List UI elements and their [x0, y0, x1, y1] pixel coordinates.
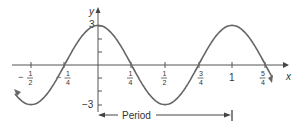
- svg-text:4: 4: [199, 79, 203, 86]
- x-tick-five-quarters: 5 4: [260, 70, 266, 86]
- y-tick-neg3: −3: [82, 99, 94, 110]
- period-right-arrow-icon: [224, 113, 231, 118]
- svg-text:4: 4: [261, 79, 265, 86]
- svg-text:−: −: [18, 72, 23, 82]
- svg-text:1: 1: [66, 70, 70, 77]
- svg-text:3: 3: [199, 70, 203, 77]
- sinusoid-chart: x y 3 −3 − 1 2: [0, 0, 294, 129]
- y-axis: y 3 −3: [82, 6, 102, 112]
- x-tick-half: 1 2: [161, 70, 167, 86]
- period-label: Period: [122, 110, 151, 121]
- period-left-arrow-icon: [98, 113, 105, 118]
- period-annotation: Period: [98, 110, 232, 121]
- curve-right-arrow-icon: [268, 75, 273, 83]
- y-axis-arrow-icon: [96, 7, 101, 13]
- svg-text:2: 2: [163, 79, 167, 86]
- svg-text:1: 1: [163, 70, 167, 77]
- svg-text:4: 4: [66, 79, 70, 86]
- svg-text:1: 1: [29, 70, 33, 77]
- x-axis-label: x: [285, 71, 292, 82]
- x-tick-three-quarters: 3 4: [198, 70, 204, 86]
- svg-text:1: 1: [129, 70, 133, 77]
- svg-text:4: 4: [129, 79, 133, 86]
- svg-text:5: 5: [261, 70, 265, 77]
- y-axis-label: y: [88, 6, 95, 17]
- x-tick-one: 1: [229, 72, 235, 83]
- x-tick-quarter: 1 4: [127, 70, 133, 86]
- x-axis: x: [12, 62, 292, 82]
- svg-text:2: 2: [29, 79, 33, 86]
- x-axis-arrow-icon: [283, 62, 289, 68]
- x-tick-neg-half: − 1 2: [18, 70, 33, 86]
